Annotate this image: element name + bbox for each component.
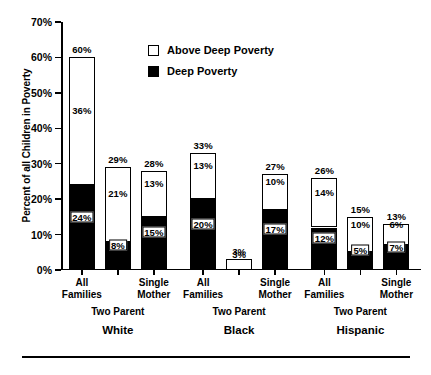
y-tick-mark: [55, 57, 61, 59]
bar-total-label: 60%: [72, 44, 91, 55]
x-tick-mark: [396, 270, 398, 275]
legend-item-above-deep-poverty: Above Deep Poverty: [148, 44, 274, 56]
x-group-label-hispanic: Hispanic: [336, 324, 384, 336]
x-label-two-parent-white: Two Parent: [91, 306, 144, 317]
legend-swatch-black-icon: [148, 66, 159, 77]
chart-legend: Above Deep Poverty Deep Poverty: [148, 44, 274, 86]
bar-deep-poverty-label: 20%: [192, 218, 215, 229]
x-label-single-mother-black: Single Mother: [258, 277, 291, 300]
bar-segment-above-deep-poverty: [226, 259, 252, 270]
bar-segment-deep-poverty: [190, 199, 216, 270]
bar-segment-above-deep-poverty: [69, 57, 95, 185]
y-tick-mark: [55, 163, 61, 165]
y-tick-label: 50%: [31, 87, 52, 99]
bar-deep-poverty-label: 12%: [313, 232, 336, 243]
x-tick-mark: [324, 270, 326, 275]
poverty-stacked-bar-chart: Percent of all Children in Poverty 0%10%…: [0, 0, 431, 375]
bar-total-label: 28%: [144, 158, 163, 169]
bar-above-deep-poverty-label: 13%: [194, 160, 213, 171]
bar-total-label: 27%: [266, 161, 285, 172]
bar-hispanic-two-parent: 15%10%5%: [347, 217, 373, 270]
legend-label-deep-poverty: Deep Poverty: [167, 65, 237, 77]
bar-deep-poverty-label: 24%: [70, 211, 93, 222]
y-tick-label: 20%: [31, 193, 52, 205]
bar-total-label: 26%: [315, 165, 334, 176]
y-tick-label: 60%: [31, 51, 52, 63]
bar-hispanic-single-mother: 13%6%7%: [383, 224, 409, 270]
legend-swatch-white-icon: [148, 45, 159, 56]
y-tick-mark: [55, 269, 61, 271]
x-tick-mark: [81, 270, 83, 275]
x-label-two-parent-black: Two Parent: [213, 306, 266, 317]
legend-item-deep-poverty: Deep Poverty: [148, 65, 274, 77]
y-tick-mark: [55, 198, 61, 200]
bar-above-deep-poverty-label: 14%: [315, 186, 334, 197]
y-tick-mark: [55, 21, 61, 23]
bar-deep-poverty-label: 8%: [109, 239, 127, 250]
x-label-all-families-hispanic: All Families: [304, 277, 344, 300]
bar-white-single-mother: 28%13%15%: [141, 171, 167, 270]
bar-deep-poverty-label: 5%: [351, 245, 369, 256]
y-tick-label: 30%: [31, 158, 52, 170]
x-group-label-white: White: [102, 324, 133, 336]
x-group-label-black: Black: [224, 324, 255, 336]
bar-above-deep-poverty-label: 21%: [108, 188, 127, 199]
bar-segment-deep-poverty: [262, 210, 288, 270]
bar-deep-poverty-label: 15%: [142, 227, 165, 238]
bar-total-label: 33%: [194, 140, 213, 151]
bar-black-two-parent: 3%3%: [226, 259, 252, 270]
bottom-divider: [22, 356, 410, 358]
y-tick-mark: [55, 234, 61, 236]
y-axis-title: Percent of all Children in Poverty: [21, 36, 32, 256]
bar-black-single-mother: 27%10%17%: [262, 174, 288, 270]
bar-above-deep-poverty-label: 36%: [72, 105, 91, 116]
bar-black-all-families: 33%13%20%: [190, 153, 216, 270]
x-tick-mark: [274, 270, 276, 275]
bar-deep-poverty-label: 7%: [387, 241, 405, 252]
bar-segment-deep-poverty: [69, 185, 95, 270]
x-label-single-mother-white: Single Mother: [137, 277, 170, 300]
bar-white-two-parent: 29%21%8%: [105, 167, 131, 270]
y-tick-mark: [55, 92, 61, 94]
x-label-single-mother-hispanic: Single Mother: [380, 277, 413, 300]
y-tick-label: 0%: [37, 264, 52, 276]
bar-above-deep-poverty-label: 6%: [389, 218, 403, 229]
bar-hispanic-all-families: 26%14%12%: [311, 178, 337, 270]
bar-total-label: 29%: [108, 154, 127, 165]
x-tick-mark: [360, 270, 362, 275]
y-tick-label: 10%: [31, 229, 52, 241]
x-tick-mark: [238, 270, 240, 275]
bar-white-all-families: 60%36%24%: [69, 57, 95, 270]
bar-segment-deep-poverty: [141, 217, 167, 270]
bar-total-label: 15%: [351, 204, 370, 215]
bar-segment-above-deep-poverty: [105, 167, 131, 241]
x-tick-mark: [153, 270, 155, 275]
y-tick-mark: [55, 128, 61, 130]
x-label-two-parent-hispanic: Two Parent: [334, 306, 387, 317]
x-tick-mark: [202, 270, 204, 275]
x-tick-mark: [117, 270, 119, 275]
bar-above-deep-poverty-label: 13%: [144, 177, 163, 188]
bar-above-deep-poverty-label: 10%: [351, 218, 370, 229]
bar-deep-poverty-label: 17%: [264, 223, 287, 234]
y-tick-label: 70%: [31, 16, 52, 28]
bar-above-deep-poverty-label: 3%: [232, 248, 246, 259]
x-label-all-families-white: All Families: [62, 277, 102, 300]
bar-above-deep-poverty-label: 10%: [266, 176, 285, 187]
y-tick-label: 40%: [31, 122, 52, 134]
y-axis-line: [61, 22, 63, 270]
legend-label-above-deep-poverty: Above Deep Poverty: [167, 44, 274, 56]
x-label-all-families-black: All Families: [183, 277, 223, 300]
